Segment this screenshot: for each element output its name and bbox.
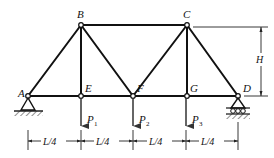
- joint-E: [79, 94, 84, 99]
- svg-text:P: P: [191, 113, 199, 125]
- svg-text:P: P: [86, 113, 94, 125]
- load-label-P3: P 3: [191, 113, 203, 128]
- label-A: A: [17, 87, 25, 99]
- height-label: H: [255, 54, 264, 65]
- joints: [26, 23, 241, 99]
- span-label-4: L/4: [200, 136, 214, 147]
- svg-text:3: 3: [199, 120, 203, 128]
- svg-text:2: 2: [146, 120, 150, 128]
- joint-C: [185, 23, 190, 28]
- joint-F: [131, 94, 136, 99]
- span-label-1: L/4: [42, 136, 56, 147]
- label-F: F: [136, 82, 144, 94]
- label-G: G: [190, 82, 198, 94]
- truss-diagram: A B C D E F G P 1 P 2 P 3 L/4 L/4 L/4 L/…: [0, 0, 274, 158]
- member-AB: [28, 25, 81, 96]
- joint-B: [79, 23, 84, 28]
- label-C: C: [183, 8, 191, 20]
- svg-text:P: P: [138, 113, 146, 125]
- svg-text:1: 1: [94, 120, 98, 128]
- joint-G: [185, 94, 190, 99]
- label-B: B: [77, 8, 84, 20]
- span-label-3: L/4: [148, 136, 162, 147]
- span-label-2: L/4: [95, 136, 109, 147]
- truss-members: [28, 25, 238, 96]
- pin-support-A: [14, 98, 43, 116]
- label-D: D: [242, 82, 251, 94]
- load-label-P2: P 2: [138, 113, 150, 128]
- label-E: E: [84, 82, 92, 94]
- load-label-P1: P 1: [86, 113, 98, 128]
- roller-support-D: [226, 98, 250, 119]
